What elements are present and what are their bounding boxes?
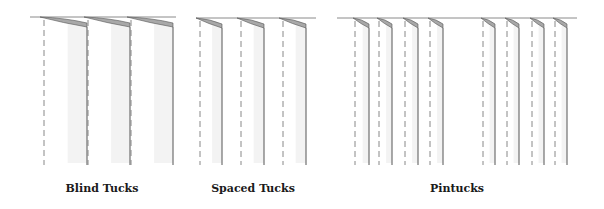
fabric-shade: [296, 24, 306, 163]
fabric-shade: [212, 24, 222, 163]
blind-tuck-fold-icon: [127, 17, 173, 27]
fabric-shade: [514, 24, 519, 163]
fabric-shade: [539, 24, 544, 163]
fabric-shade: [68, 23, 87, 163]
fabric-shade: [111, 23, 130, 163]
fabric-shade: [562, 24, 567, 163]
fabric-shade: [154, 23, 173, 163]
fabric-shade: [363, 24, 369, 163]
fabric-shade: [386, 24, 392, 163]
fabric-shade: [490, 24, 495, 163]
blind-tuck-fold-icon: [84, 17, 130, 27]
blind-tuck-fold-icon: [40, 17, 87, 27]
fabric-shade: [412, 24, 418, 163]
label-pintucks: Pintucks: [430, 182, 484, 195]
label-blind-tucks: Blind Tucks: [66, 182, 139, 195]
label-spaced-tucks: Spaced Tucks: [211, 182, 295, 195]
fabric-shade: [254, 24, 264, 163]
fabric-shade: [437, 24, 443, 163]
tucks-diagram: [0, 0, 604, 209]
